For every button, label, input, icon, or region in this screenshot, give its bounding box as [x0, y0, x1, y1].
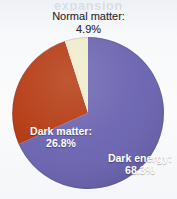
pie-graphic: Dark matter: 26.8% Dark energy: 68.3% — [12, 37, 164, 189]
pie-svg — [12, 37, 164, 189]
normal-matter-label-percent: 4.9% — [0, 23, 177, 36]
normal-matter-label-name: Normal matter: — [0, 10, 177, 23]
normal-matter-external-label: Normal matter: 4.9% — [0, 10, 177, 35]
pie-chart-figure: expansion Normal matter: 4.9% — [0, 0, 177, 199]
